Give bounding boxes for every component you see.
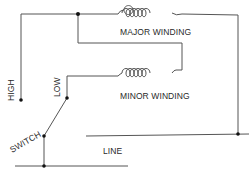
major-winding-label: MAJOR WINDING	[120, 27, 191, 37]
return-junction-dot	[236, 132, 240, 136]
top-wire	[21, 14, 118, 100]
low-contact-dot	[65, 96, 69, 100]
high-contact-dot	[19, 98, 23, 102]
wiring-diagram: MAJOR WINDING MINOR WINDING HIGH LOW SWI…	[0, 0, 249, 174]
minor-winding-loops	[122, 69, 176, 77]
line-junction-dot	[42, 164, 46, 168]
line-label: LINE	[103, 146, 122, 156]
switch-blade	[44, 98, 67, 136]
return-wire	[86, 134, 249, 136]
branch-wire	[78, 14, 182, 70]
low-wire	[67, 73, 122, 98]
minor-winding-label: MINOR WINDING	[120, 91, 190, 101]
high-label: HIGH	[6, 79, 16, 101]
junction-dot-top	[76, 12, 80, 16]
low-label: LOW	[52, 77, 62, 97]
